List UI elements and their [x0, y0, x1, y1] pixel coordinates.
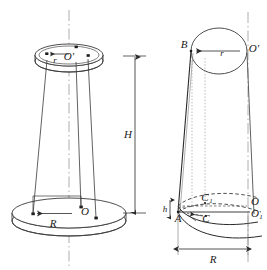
label-right-center-O1: O: [251, 207, 259, 219]
label-height-H: H: [123, 128, 133, 140]
base-ellipse-lower-back: [178, 204, 261, 212]
label-point-C: C: [202, 212, 210, 224]
label-right-center-O1-group: O 1: [251, 207, 263, 221]
top-attach-point-right: [87, 54, 90, 57]
string-right: [88, 59, 96, 218]
diagram-svg: O' r O R H B O' r A h C 1 C O O 1 R: [0, 0, 267, 270]
top-attach-point-left: [45, 52, 48, 55]
label-right-center-O1-subscript: 1: [259, 213, 263, 221]
arc-indicator-left: [188, 215, 196, 221]
label-point-A: A: [174, 212, 182, 224]
label-point-C1-group: C 1: [201, 191, 212, 205]
label-right-O-prime: O': [249, 42, 260, 54]
string-left: [33, 60, 47, 214]
physics-figure-container: O' r O R H B O' r A h C 1 C O O 1 R: [0, 0, 267, 270]
base-ellipse-lower-front: [178, 212, 262, 238]
cone-inner-slant-edge: [180, 53, 193, 212]
label-bottom-center-O: O: [81, 205, 89, 217]
label-point-B: B: [181, 38, 188, 50]
label-top-radius-r: r: [53, 55, 57, 65]
point-B-marker: [190, 50, 193, 53]
label-right-radius-r: r: [220, 48, 224, 58]
string-middle: [76, 62, 81, 207]
label-bottom-radius-R: R: [49, 217, 57, 229]
label-top-center-O-prime: O': [64, 50, 75, 62]
label-right-center-O: O: [251, 195, 259, 207]
base-ellipse-upper-front: [178, 206, 258, 225]
label-base-radius-R: R: [209, 253, 217, 265]
label-point-C1: C: [201, 191, 209, 203]
cone-top-ellipse-back: [191, 28, 247, 51]
cone-top-ellipse-front: [191, 51, 247, 74]
label-height-h: h: [163, 204, 168, 214]
label-point-C1-subscript: 1: [209, 197, 213, 205]
bottom-disk-top-face: [12, 198, 126, 228]
cone-left-slant-edge: [178, 51, 191, 212]
bottom-attach-point-right: [94, 217, 97, 220]
top-attach-point-mid: [75, 46, 78, 49]
